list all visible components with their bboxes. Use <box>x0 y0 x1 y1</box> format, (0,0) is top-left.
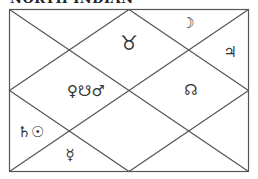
north-indian-chart-grid <box>0 0 258 179</box>
rahu-icon: ☊ <box>184 83 197 98</box>
jupiter-icon: ♃ <box>223 45 236 60</box>
venus-ketu-mars-icons: ♀☋♂ <box>67 84 105 99</box>
mercury-icon: ☿ <box>65 148 74 163</box>
moon-icon: ☽ <box>181 16 194 31</box>
saturn-sun-icons: ♄☉ <box>18 125 45 140</box>
taurus-sign-icon: ♉ <box>120 33 138 53</box>
